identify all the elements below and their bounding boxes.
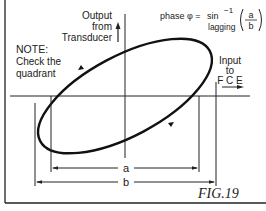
x-axis-label: Input to F C E bbox=[217, 55, 243, 86]
svg-text:Check the: Check the bbox=[16, 56, 61, 67]
svg-text:Transducer: Transducer bbox=[62, 32, 113, 43]
quadrant-note: NOTE: Check the quadrant bbox=[16, 43, 61, 79]
dimension-a: a bbox=[52, 162, 198, 174]
svg-text:NOTE:: NOTE: bbox=[16, 43, 48, 55]
lissajous-figure: a b Output from Transducer NOTE: Check t… bbox=[0, 0, 266, 211]
svg-text:Output: Output bbox=[82, 10, 112, 21]
svg-text:from: from bbox=[92, 21, 112, 32]
formula-exponent: −1 bbox=[224, 6, 234, 15]
direction-arrow-icon bbox=[168, 122, 174, 127]
arrow-up-icon bbox=[116, 22, 121, 42]
y-axis-label: Output from Transducer bbox=[62, 10, 113, 43]
formula-denominator: b bbox=[248, 21, 253, 31]
phase-formula: phase φ = sin −1 lagging a b bbox=[160, 6, 262, 32]
svg-text:quadrant: quadrant bbox=[16, 68, 56, 79]
formula-func: sin bbox=[207, 11, 219, 21]
svg-text:F C E: F C E bbox=[217, 75, 243, 86]
dimension-b: b bbox=[36, 176, 215, 188]
dimension-b-label: b bbox=[123, 176, 129, 188]
figure-label: FIG.19 bbox=[197, 186, 239, 201]
dimension-a-label: a bbox=[123, 162, 130, 174]
direction-arrow-icon bbox=[78, 65, 84, 70]
formula-numerator: a bbox=[248, 10, 253, 20]
formula-prefix: phase φ = bbox=[160, 11, 201, 21]
formula-qualifier: lagging bbox=[208, 22, 236, 32]
